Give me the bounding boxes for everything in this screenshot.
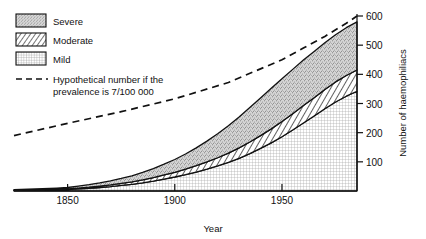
- y-tick-label: 400: [366, 69, 383, 80]
- legend-label-mild: Mild: [53, 54, 70, 65]
- x-tick-label: 1950: [271, 195, 294, 206]
- x-tick-label: 1850: [56, 195, 79, 206]
- legend-swatch-severe: [16, 14, 46, 27]
- legend-label-severe: Severe: [53, 16, 83, 27]
- y-axis-title: Number of haemophiliacs: [397, 49, 408, 157]
- x-axis-title: Year: [203, 223, 222, 234]
- legend-swatch-moderate: [16, 33, 46, 46]
- chart-legend: Severe Moderate Mild Hypothetical number…: [16, 14, 163, 97]
- legend-label-hypothetical-line-2: prevalence is 7/100 000: [53, 86, 154, 97]
- y-tick-label: 300: [366, 99, 383, 110]
- y-tick-label: 200: [366, 128, 383, 139]
- legend-label-hypothetical-line-1: Hypothetical number if the: [53, 74, 163, 85]
- haemophiliacs-area-chart: 185019001950 100200300400500600 Year Num…: [0, 0, 426, 239]
- y-tick-label: 100: [366, 157, 383, 168]
- legend-label-moderate: Moderate: [53, 35, 93, 46]
- y-tick-label: 600: [366, 11, 383, 22]
- legend-swatch-mild: [16, 52, 46, 65]
- x-tick-label: 1900: [164, 195, 187, 206]
- chart-figure: 185019001950 100200300400500600 Year Num…: [0, 0, 426, 239]
- y-axis-ticks: 100200300400500600: [357, 11, 383, 168]
- y-tick-label: 500: [366, 40, 383, 51]
